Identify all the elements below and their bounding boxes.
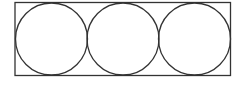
circle-1 <box>16 3 88 75</box>
circles-group <box>16 3 231 75</box>
bounding-rectangle <box>15 3 231 76</box>
circle-3 <box>159 3 231 75</box>
diagram-canvas <box>0 0 236 87</box>
circle-2 <box>87 3 159 75</box>
